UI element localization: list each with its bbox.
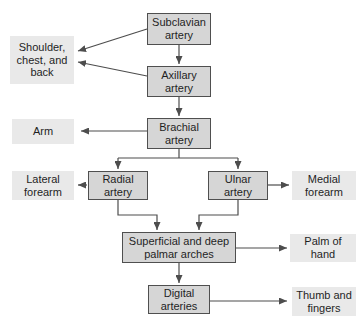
node-axillary-artery: Axillary artery bbox=[147, 66, 211, 97]
region-arm: Arm bbox=[12, 119, 74, 144]
region-palm-of-hand: Palm of hand bbox=[290, 234, 356, 262]
artery-flowchart: Subclavian artery Axillary artery Brachi… bbox=[0, 0, 364, 326]
node-ulnar-artery: Ulnar artery bbox=[208, 171, 268, 200]
node-radial-artery: Radial artery bbox=[88, 171, 148, 200]
edge-axillary-to-shoulder bbox=[78, 62, 147, 76]
region-thumb-and-fingers: Thumb and fingers bbox=[292, 287, 356, 316]
region-lateral-forearm: Lateral forearm bbox=[12, 171, 74, 200]
region-medial-forearm: Medial forearm bbox=[292, 171, 356, 200]
edge-ulnar-to-palmar-arches bbox=[199, 200, 238, 230]
node-brachial-artery: Brachial artery bbox=[147, 118, 211, 149]
node-palmar-arches: Superficial and deep palmar arches bbox=[122, 232, 236, 263]
node-subclavian-artery: Subclavian artery bbox=[147, 13, 211, 45]
node-digital-arteries: Digital arteries bbox=[148, 285, 210, 314]
region-shoulder-chest-back: Shoulder, chest, and back bbox=[10, 36, 74, 84]
edge-brachial-split-stem bbox=[118, 149, 238, 158]
edge-subclavian-to-shoulder bbox=[78, 29, 147, 51]
edge-radial-to-palmar-arches bbox=[118, 200, 157, 230]
